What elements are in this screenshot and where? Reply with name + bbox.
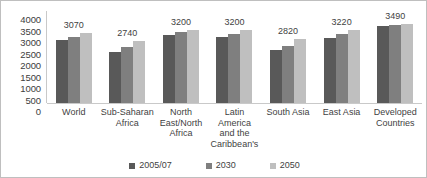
bar-group-bars	[368, 12, 422, 104]
category-label: Sub-SaharanAfrica	[101, 107, 155, 128]
category-label-line: South Asia	[261, 107, 315, 118]
bar-group: 2820	[261, 12, 315, 104]
legend-swatch-icon	[129, 163, 135, 169]
x-axis-line	[47, 103, 422, 104]
bar-group: 3200	[154, 12, 208, 104]
bar[interactable]	[270, 50, 282, 104]
bar-value-label: 2740	[101, 29, 155, 38]
y-tick-label: 2500	[20, 50, 41, 60]
bar-group: 2740	[101, 12, 155, 104]
bar[interactable]	[336, 34, 348, 104]
bar[interactable]	[401, 24, 413, 104]
y-tick-label: 1500	[20, 73, 41, 83]
category-label-line: Latin America	[208, 107, 262, 128]
category-label-line: and the	[208, 128, 262, 139]
bar-value-label: 2820	[261, 27, 315, 36]
category-label-line: Africa	[154, 128, 208, 139]
bar[interactable]	[216, 37, 228, 104]
bar[interactable]	[240, 30, 252, 104]
bar[interactable]	[187, 30, 199, 104]
category-label-line: Caribbean's	[208, 139, 262, 150]
legend-item[interactable]: 2005/07	[129, 161, 172, 170]
legend-label: 2030	[216, 161, 236, 170]
legend-swatch-icon	[206, 163, 212, 169]
y-tick-label: 4000	[20, 15, 41, 25]
bar[interactable]	[175, 32, 187, 104]
category-label: World	[47, 107, 101, 118]
category-label-line: East Asia	[315, 107, 369, 118]
bar[interactable]	[121, 47, 133, 105]
bar[interactable]	[282, 46, 294, 104]
legend-item[interactable]: 2030	[206, 161, 236, 170]
bar-value-label: 3070	[47, 21, 101, 30]
bar[interactable]	[133, 41, 145, 104]
legend-item[interactable]: 2050	[270, 161, 300, 170]
bar[interactable]	[56, 40, 68, 104]
bar-group: 3490	[368, 12, 422, 104]
bar[interactable]	[324, 38, 336, 104]
plot-area: 3070274032003200282032203490	[47, 11, 422, 104]
bar-value-label: 3220	[315, 18, 369, 27]
bar-group: 3070	[47, 12, 101, 104]
y-tick-label: 2000	[20, 61, 41, 71]
bar-group: 3220	[315, 12, 369, 104]
bar-value-label: 3200	[208, 18, 262, 27]
category-label-line: Countries	[368, 118, 422, 129]
legend-label: 2005/07	[139, 161, 172, 170]
y-tick-label: 1000	[20, 84, 41, 94]
category-label-line: East/North	[154, 118, 208, 129]
legend-swatch-icon	[270, 163, 276, 169]
y-tick-label: 3000	[20, 38, 41, 48]
category-label-line: World	[47, 107, 101, 118]
bar[interactable]	[68, 37, 80, 104]
bar[interactable]	[348, 30, 360, 104]
category-label: Latin Americaand theCaribbean's	[208, 107, 262, 149]
category-label-line: Developed	[368, 107, 422, 118]
chart-legend: 2005/0720302050	[1, 161, 427, 170]
legend-label: 2050	[280, 161, 300, 170]
bar[interactable]	[389, 25, 401, 104]
bar-group-bars	[101, 12, 155, 104]
bar-value-label: 3200	[154, 18, 208, 27]
category-label-line: Africa	[101, 118, 155, 129]
bar[interactable]	[377, 26, 389, 104]
category-label-line: Sub-Saharan	[101, 107, 155, 118]
bar[interactable]	[228, 34, 240, 104]
y-tick-label: 3500	[20, 27, 41, 37]
y-tick-label: 0	[36, 107, 41, 117]
bar-value-label: 3490	[368, 12, 422, 21]
bar[interactable]	[80, 33, 92, 104]
category-label-line: North	[154, 107, 208, 118]
category-label: South Asia	[261, 107, 315, 118]
bar[interactable]	[163, 35, 175, 104]
bar-chart: 40003500300025002000150010005000 3070274…	[0, 0, 427, 178]
category-label: East Asia	[315, 107, 369, 118]
x-axis-category-labels: WorldSub-SaharanAfricaNorthEast/NorthAfr…	[47, 107, 422, 155]
bar[interactable]	[109, 52, 121, 104]
category-label: NorthEast/NorthAfrica	[154, 107, 208, 139]
y-axis: 40003500300025002000150010005000	[1, 9, 47, 104]
bar[interactable]	[294, 39, 306, 104]
bar-group: 3200	[208, 12, 262, 104]
y-tick-label: 500	[25, 96, 41, 106]
category-label: DevelopedCountries	[368, 107, 422, 128]
